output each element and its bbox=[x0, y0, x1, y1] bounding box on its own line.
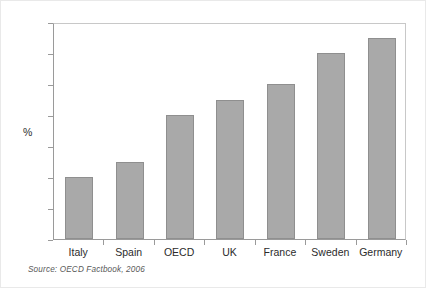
x-axis-tick-mark bbox=[103, 240, 104, 245]
x-axis-category-label: UK bbox=[222, 247, 237, 259]
bar[interactable] bbox=[267, 84, 295, 239]
bar[interactable] bbox=[368, 38, 396, 240]
source-note: Source: OECD Factbook, 2006 bbox=[28, 265, 145, 274]
x-axis-tick-mark bbox=[154, 240, 155, 245]
x-axis-category-label: France bbox=[264, 247, 297, 259]
x-axis-tick-mark bbox=[204, 240, 205, 245]
bar-slot bbox=[104, 24, 154, 239]
bar-slot bbox=[205, 24, 255, 239]
x-axis-category-label: OECD bbox=[164, 247, 194, 259]
bar[interactable] bbox=[166, 115, 194, 239]
bar-chart-figure: 02468101214% ItalySpainOECDUKFranceSwede… bbox=[0, 0, 426, 288]
bar-slot bbox=[155, 24, 205, 239]
x-axis-category-label: Germany bbox=[359, 247, 402, 259]
bar[interactable] bbox=[65, 177, 93, 239]
bar-slot bbox=[306, 24, 356, 239]
y-axis-tick-mark bbox=[48, 240, 53, 241]
bar[interactable] bbox=[317, 53, 345, 239]
bar[interactable] bbox=[216, 100, 244, 240]
x-axis-category-label: Sweden bbox=[311, 247, 349, 259]
x-axis-tick-mark bbox=[406, 240, 407, 245]
x-axis-tick-mark bbox=[255, 240, 256, 245]
bar-slot bbox=[256, 24, 306, 239]
y-axis-title: % bbox=[23, 126, 32, 137]
x-axis-category-label: Italy bbox=[69, 247, 88, 259]
x-axis-tick-mark bbox=[305, 240, 306, 245]
bar-slot bbox=[357, 24, 407, 239]
y-axis: 02468101214% bbox=[1, 1, 53, 288]
bar-slot bbox=[54, 24, 104, 239]
x-axis-tick-mark bbox=[356, 240, 357, 245]
plot-area bbox=[53, 23, 406, 240]
bar[interactable] bbox=[116, 162, 144, 240]
x-axis-category-label: Spain bbox=[115, 247, 142, 259]
